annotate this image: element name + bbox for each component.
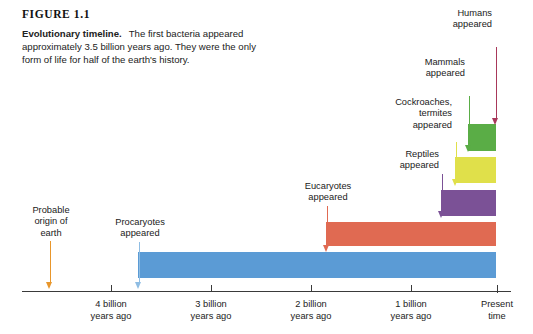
axis-label-present: Present time <box>452 299 533 322</box>
label-eucaryotes-line1: Eucaryotes <box>287 181 369 192</box>
bar-cockroaches-termites <box>455 157 496 183</box>
axis-label-4bya-line1: 4 billion <box>66 299 156 311</box>
axis-tick-present <box>497 285 498 293</box>
axis-label-present-line1: Present <box>452 299 533 311</box>
label-mammals: Mammals appeared <box>404 57 465 80</box>
label-mammals-line2: appeared <box>404 68 465 79</box>
label-cockroaches-line1: Cockroaches, <box>372 97 452 108</box>
axis-tick-4bya <box>111 285 112 292</box>
bar-eucaryotes <box>326 222 496 246</box>
axis-tick-3bya <box>211 285 212 292</box>
label-humans-line2: appeared <box>429 19 492 30</box>
timeline-axis <box>22 291 511 292</box>
axis-label-4bya-line2: years ago <box>66 311 156 323</box>
label-procaryotes-line2: appeared <box>99 228 181 239</box>
axis-label-present-line2: time <box>452 311 533 323</box>
label-reptiles-line1: Reptiles <box>383 149 439 160</box>
label-probable-origin-line1: Probable <box>10 205 92 216</box>
label-humans: Humans appeared <box>429 8 492 31</box>
axis-label-3bya-line1: 3 billion <box>166 299 256 311</box>
label-cockroaches-line3: appeared <box>372 120 452 131</box>
label-reptiles-line2: appeared <box>383 160 439 171</box>
label-probable-origin: Probable origin of earth <box>10 205 92 239</box>
axis-label-2bya: 2 billion years ago <box>266 299 356 322</box>
label-procaryotes: Procaryotes appeared <box>99 217 181 240</box>
axis-label-3bya: 3 billion years ago <box>166 299 256 322</box>
label-humans-line1: Humans <box>429 8 492 19</box>
axis-label-3bya-line2: years ago <box>166 311 256 323</box>
axis-label-1bya-line1: 1 billion <box>366 299 456 311</box>
bar-reptiles <box>441 190 496 216</box>
label-cockroaches-line2: termites <box>372 108 452 119</box>
label-cockroaches-termites: Cockroaches, termites appeared <box>372 97 452 131</box>
label-probable-origin-line2: origin of <box>10 216 92 227</box>
axis-label-1bya: 1 billion years ago <box>366 299 456 322</box>
label-probable-origin-line3: earth <box>10 228 92 239</box>
axis-label-1bya-line2: years ago <box>366 311 456 323</box>
label-reptiles: Reptiles appeared <box>383 149 439 172</box>
axis-label-4bya: 4 billion years ago <box>66 299 156 322</box>
axis-label-2bya-line2: years ago <box>266 311 356 323</box>
timeline-plot: Probable origin of earth Procaryotes app… <box>0 0 533 334</box>
bar-mammals <box>468 124 496 151</box>
label-mammals-line1: Mammals <box>404 57 465 68</box>
axis-tick-1bya <box>411 285 412 292</box>
axis-tick-2bya <box>311 285 312 292</box>
bar-procaryotes <box>138 252 496 278</box>
label-eucaryotes: Eucaryotes appeared <box>287 181 369 204</box>
figure-evolutionary-timeline: FIGURE 1.1 Evolutionary timeline.The fir… <box>0 0 533 334</box>
label-procaryotes-line1: Procaryotes <box>99 217 181 228</box>
axis-label-2bya-line1: 2 billion <box>266 299 356 311</box>
label-eucaryotes-line2: appeared <box>287 192 369 203</box>
